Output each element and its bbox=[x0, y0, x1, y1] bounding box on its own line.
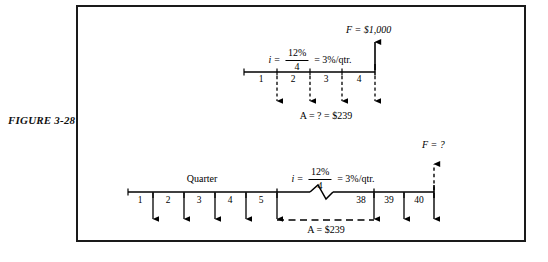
upper-period-label-4: 4 bbox=[357, 75, 362, 85]
upper-interest-rate-expression: i = 12% 4 = 3%/qtr. bbox=[268, 48, 351, 72]
upper-rate-numerator: 12% bbox=[286, 48, 308, 61]
lower-period-label-4: 4 bbox=[228, 196, 233, 206]
lower-rate-equals: = bbox=[297, 174, 306, 184]
upper-annuity-label: A = ? = $239 bbox=[300, 111, 352, 121]
upper-rate-result: = 3%/qtr. bbox=[311, 55, 351, 65]
lower-period-label-5: 5 bbox=[259, 196, 264, 206]
figure-caption: FIGURE 3-28 bbox=[8, 114, 74, 126]
upper-period-label-2: 2 bbox=[291, 75, 296, 85]
lower-rate-numerator: 12% bbox=[309, 167, 331, 180]
figure-frame-inner: F = $1,000 i = 12% 4 = 3%/qtr. 1 2 3 4 A… bbox=[78, 7, 524, 240]
upper-rate-fraction: 12% 4 bbox=[286, 48, 308, 72]
figure-root: FIGURE 3-28 bbox=[0, 0, 548, 262]
lower-interest-rate-expression: i = 12% 4 = 3%/qtr. bbox=[291, 167, 374, 191]
upper-future-value-label: F = $1,000 bbox=[346, 25, 391, 35]
figure-frame: F = $1,000 i = 12% 4 = 3%/qtr. 1 2 3 4 A… bbox=[76, 5, 526, 242]
upper-rate-denominator: 4 bbox=[295, 61, 300, 73]
lower-period-label-38: 38 bbox=[356, 196, 366, 206]
upper-period-label-3: 3 bbox=[324, 75, 329, 85]
upper-period-label-1: 1 bbox=[259, 75, 264, 85]
lower-annuity-label: A = $239 bbox=[307, 225, 344, 235]
lower-timeline-unit-label: Quarter bbox=[187, 174, 218, 184]
lower-rate-result: = 3%/qtr. bbox=[334, 174, 374, 184]
lower-rate-denominator: 4 bbox=[318, 180, 323, 192]
lower-period-label-40: 40 bbox=[414, 196, 424, 206]
lower-future-value-label: F = ? bbox=[422, 140, 445, 150]
lower-period-label-3: 3 bbox=[197, 196, 202, 206]
lower-diagram-group bbox=[128, 164, 434, 220]
lower-period-label-1: 1 bbox=[138, 196, 143, 206]
lower-rate-fraction: 12% 4 bbox=[309, 167, 331, 191]
upper-rate-equals: = bbox=[274, 55, 283, 65]
cash-flow-diagrams-svg bbox=[78, 7, 528, 244]
lower-period-label-39: 39 bbox=[384, 196, 394, 206]
lower-period-label-2: 2 bbox=[166, 196, 171, 206]
